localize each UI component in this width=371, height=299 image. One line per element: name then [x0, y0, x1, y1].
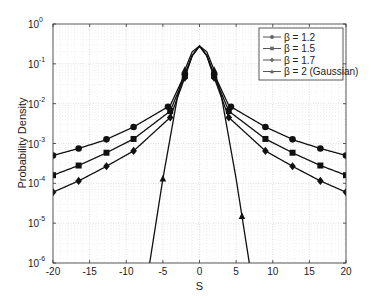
y-tick-label: 10 — [28, 19, 40, 30]
chart: -20-15-10-505101520 10010-110-210-310-41… — [0, 0, 371, 299]
circle-marker — [262, 124, 269, 131]
legend-label: β = 1.7 — [284, 55, 315, 66]
x-tick-label: -10 — [119, 266, 134, 277]
circle-marker — [317, 145, 324, 152]
x-axis-label: S — [196, 280, 203, 292]
square-marker — [290, 150, 296, 156]
square-marker — [103, 150, 109, 156]
diamond-marker — [103, 162, 110, 170]
legend-label: β = 2 (Gaussian) — [284, 66, 358, 77]
circle-marker — [270, 35, 274, 39]
diamond-marker — [289, 162, 296, 170]
y-tick-exponent: -6 — [39, 255, 45, 262]
diamond-marker — [75, 177, 82, 185]
x-tick-label: 0 — [197, 266, 203, 277]
circle-marker — [103, 136, 110, 143]
x-tick-label: 20 — [340, 266, 352, 277]
y-tick-label: 10 — [28, 218, 40, 229]
square-marker — [262, 136, 268, 142]
y-tick-exponent: -5 — [39, 215, 45, 222]
y-tick-label: 10 — [28, 258, 40, 269]
y-axis-label: Probability Density — [16, 97, 28, 189]
circle-marker — [130, 124, 137, 131]
y-tick-exponent: -4 — [39, 175, 45, 182]
y-tick-exponent: -3 — [39, 136, 45, 143]
y-tick-label: 10 — [28, 99, 40, 110]
x-tick-label: 5 — [233, 266, 239, 277]
y-tick-exponent: -1 — [39, 56, 45, 63]
circle-marker — [75, 145, 82, 152]
x-tick-label: -15 — [82, 266, 97, 277]
y-tick-exponent: 0 — [39, 16, 43, 23]
x-tick-label: 10 — [267, 266, 279, 277]
x-tick-label: -20 — [46, 266, 61, 277]
y-tick-label: 10 — [28, 59, 40, 70]
legend-label: β = 1.5 — [284, 43, 315, 54]
y-tick-exponent: -2 — [39, 96, 45, 103]
x-tick-label: -5 — [158, 266, 167, 277]
circle-marker — [289, 136, 296, 143]
diamond-marker — [317, 177, 324, 185]
legend-label: β = 1.2 — [284, 32, 315, 43]
square-marker — [270, 47, 274, 51]
square-marker — [317, 163, 323, 169]
triangle-marker — [239, 212, 246, 219]
triangle-marker — [160, 175, 167, 182]
square-marker — [131, 136, 137, 142]
legend: β = 1.2β = 1.5β = 1.7β = 2 (Gaussian) — [259, 28, 358, 80]
square-marker — [76, 163, 82, 169]
y-tick-label: 10 — [28, 139, 40, 150]
y-tick-label: 10 — [28, 178, 40, 189]
x-tick-label: 15 — [304, 266, 316, 277]
